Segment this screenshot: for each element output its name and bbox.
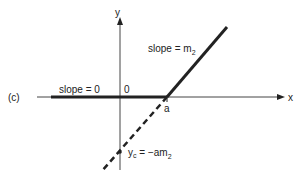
m2-slope-segment xyxy=(167,27,227,97)
slope-m2-label: slope = m2 xyxy=(148,43,196,56)
dashed-extension xyxy=(101,97,167,172)
x-axis-label: x xyxy=(288,92,293,103)
intercept-label: yc = −am2 xyxy=(128,147,172,160)
intercept-point xyxy=(118,150,122,154)
slope-zero-label: slope = 0 xyxy=(59,84,100,95)
panel-label: (c) xyxy=(8,92,20,103)
x-axis-arrow-icon xyxy=(277,94,285,100)
point-a-label: a xyxy=(164,103,170,114)
origin-label: 0 xyxy=(124,84,130,95)
y-axis-label: y xyxy=(115,7,120,18)
piecewise-linear-diagram: (c) y x 0 slope = 0 a slope = m2 yc = −a… xyxy=(0,0,307,183)
y-axis-arrow-icon xyxy=(117,17,123,25)
